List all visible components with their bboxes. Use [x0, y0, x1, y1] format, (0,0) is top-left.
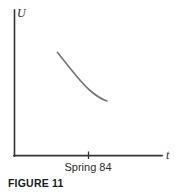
- y-axis-label: U: [17, 7, 26, 19]
- figure-container: U t Spring 84 FIGURE 11: [0, 0, 182, 192]
- x-axis-label: t: [166, 149, 169, 161]
- figure-caption: FIGURE 11: [8, 177, 63, 189]
- x-axis-tick-label: Spring 84: [0, 161, 176, 174]
- utility-curve: [58, 53, 108, 102]
